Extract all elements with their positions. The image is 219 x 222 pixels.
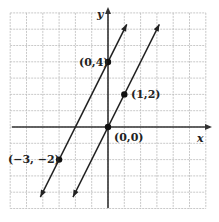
point-0-0 — [105, 124, 111, 130]
label-neg3-neg2: (−3, −2) — [8, 153, 60, 166]
label-1-2: (1,2) — [131, 88, 161, 101]
y-axis-arrow-icon — [105, 7, 111, 14]
axes: y x — [12, 7, 212, 208]
y-axis-label: y — [96, 8, 105, 21]
label-0-0: (0,0) — [114, 131, 144, 144]
x-axis-arrow-icon — [205, 124, 212, 130]
x-axis-label: x — [196, 132, 204, 145]
coordinate-plane: y x (0,4) (1,2) (0,0) (−3, −2) — [0, 0, 219, 222]
label-0-4: (0,4) — [79, 56, 109, 69]
point-1-2 — [121, 91, 127, 97]
